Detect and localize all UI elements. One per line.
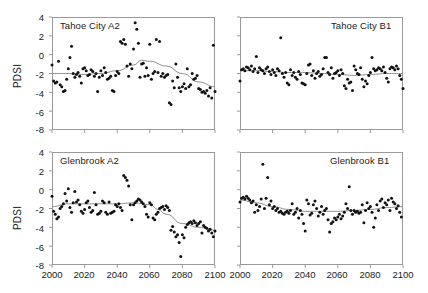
x-tick-label: 2080	[352, 269, 388, 280]
x-tick-label: 2020	[254, 269, 290, 280]
scatter-plot-glenbrook-b1	[0, 0, 428, 293]
x-tick-label: 2000	[222, 269, 258, 280]
x-tick-label: 2060	[319, 269, 355, 280]
x-tick-label: 2040	[287, 269, 323, 280]
pdsi-projection-figure: PDSI 4 2 0 -2 -4 -6 -8 Tahoe City A2 Tah…	[0, 0, 428, 293]
x-tick-label: 2100	[385, 269, 421, 280]
